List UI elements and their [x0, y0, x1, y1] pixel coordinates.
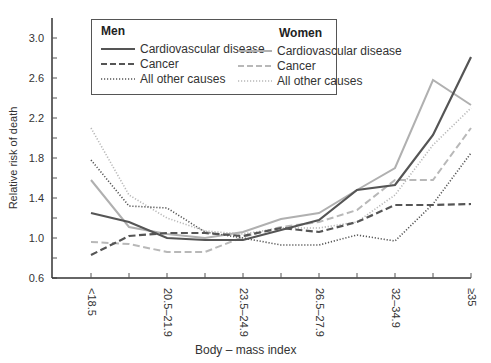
y-axis: 0.61.01.41.82.22.63.0: [29, 18, 57, 284]
dashed-line-icon: [238, 63, 272, 69]
y-tick-label: 1.4: [29, 192, 44, 204]
x-axis-title: Body – mass index: [195, 343, 296, 357]
x-tick-label: <18.5: [86, 288, 98, 316]
legend-label: Cancer: [140, 57, 179, 71]
y-tick-label: 0.6: [29, 272, 44, 284]
y-axis-title: Relative risk of death: [7, 98, 21, 218]
legend-label: Cancer: [277, 59, 316, 73]
x-tick-label: 20.5–21.9: [162, 288, 174, 337]
y-tick-label: 1.8: [29, 152, 44, 164]
legend-label: Cardiovascular disease: [277, 44, 402, 58]
legend-title-women: Women: [238, 26, 402, 40]
dotted-line-icon: [238, 78, 272, 84]
y-tick-label: 2.6: [29, 72, 44, 84]
y-tick-label: 3.0: [29, 32, 44, 44]
legend-item-women-cancer: Cancer: [238, 58, 402, 73]
y-tick-label: 1.0: [29, 232, 44, 244]
series-line: [91, 128, 471, 252]
x-tick-label: 23.5–24.9: [238, 288, 250, 337]
legend-label: All other causes: [140, 72, 225, 86]
y-tick-label: 2.2: [29, 112, 44, 124]
solid-line-icon: [238, 48, 272, 54]
x-tick-label: 26.5–27.9: [314, 288, 326, 337]
legend-item-women-other: All other causes: [238, 73, 402, 88]
dashed-line-icon: [101, 61, 135, 67]
x-axis: <18.520.5–21.923.5–24.926.5–27.932–34.9≥…: [52, 273, 478, 337]
solid-line-icon: [101, 46, 135, 52]
series-line: [91, 108, 471, 234]
x-tick-label: 32–34.9: [390, 288, 402, 328]
dotted-line-icon: [101, 76, 135, 82]
legend: Men Cardiovascular disease Cancer All ot…: [91, 19, 337, 95]
x-tick-label: ≥35: [466, 288, 478, 306]
legend-item-women-cvd: Cardiovascular disease: [238, 43, 402, 58]
legend-group-women: Women Cardiovascular disease Cancer All …: [238, 26, 402, 88]
legend-label: All other causes: [277, 74, 362, 88]
